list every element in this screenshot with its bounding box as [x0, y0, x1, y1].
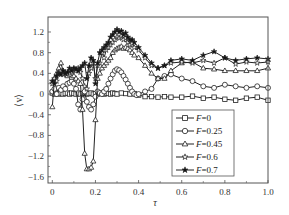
line-chart: 00.20.40.60.81.0 1.20.80.40−0.4−0.8−1.2−…: [0, 0, 289, 215]
x-tick-label: 0: [50, 187, 55, 197]
legend-label: F=0: [195, 113, 212, 123]
y-tick-label: −0.4: [28, 110, 45, 120]
legend-label: F=0.45: [195, 139, 223, 149]
x-axis-title: τ: [153, 197, 157, 208]
legend-label: F=0.25: [195, 126, 223, 136]
legend: F=0F=0.25F=0.45F=0.6F=0.7: [172, 110, 234, 176]
x-tick-label: 0.2: [90, 187, 101, 197]
x-tick-label: 1.0: [262, 187, 274, 197]
y-tick-label: 0.4: [33, 68, 45, 78]
y-axis-title: ⟨v⟩: [13, 94, 24, 107]
x-tick-label: 0.4: [133, 187, 145, 197]
x-tick-label: 0.8: [219, 187, 231, 197]
y-tick-label: −0.8: [28, 130, 45, 140]
y-tick-label: 0: [40, 89, 45, 99]
x-tick-label: 0.6: [176, 187, 188, 197]
series-f-0-25: [50, 67, 271, 112]
y-tick-label: 1.2: [33, 27, 44, 37]
y-tick-label: −1.2: [28, 151, 44, 161]
series-layer: [50, 27, 271, 171]
legend-label: F=0.6: [195, 152, 218, 162]
legend-label: F=0.7: [195, 165, 218, 175]
y-tick-label: −1.6: [28, 172, 45, 182]
y-tick-label: 0.8: [33, 48, 45, 58]
y-axis-tick-labels: 1.20.80.40−0.4−0.8−1.2−1.6: [28, 27, 45, 182]
x-axis-tick-labels: 00.20.40.60.81.0: [50, 187, 274, 197]
